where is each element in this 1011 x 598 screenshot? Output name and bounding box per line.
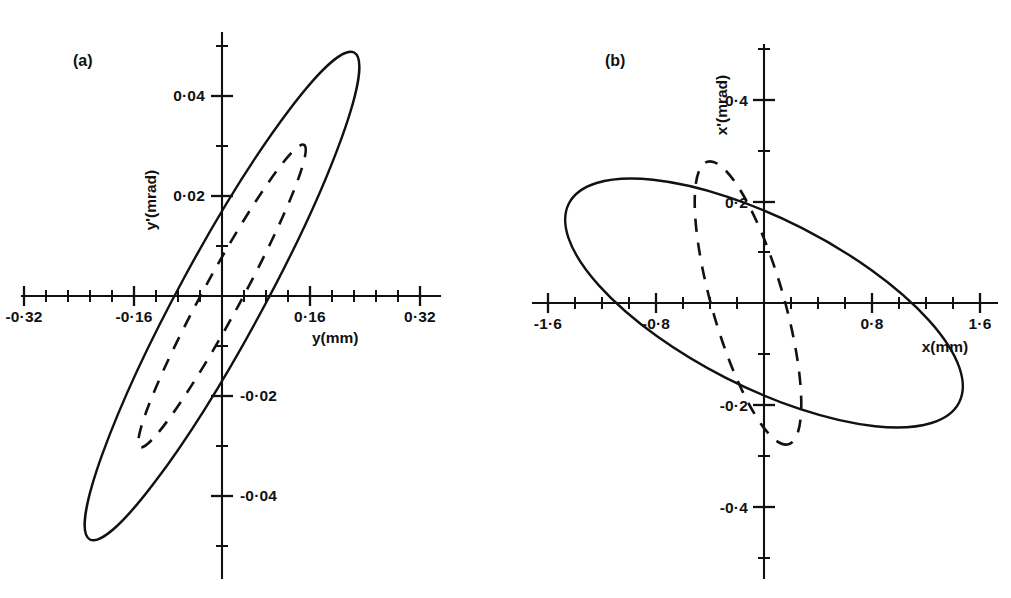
panel-b-xtick-label-4: 1·6 xyxy=(968,315,991,332)
panel-b-y-axis-title: x'(mrad) xyxy=(713,75,730,136)
panel-a-x-axis-title: y(mm) xyxy=(312,329,359,346)
panel-a-ytick-label-2: 0·02 xyxy=(173,187,205,204)
panel-a-xtick-label-4: 0·32 xyxy=(404,308,436,325)
panel-b-plot: (b) -1·6 -0·8 0·8 1·6 0·4 0·2 -0·2 -0·4 … xyxy=(505,0,1011,598)
panel-a-xtick-label-2: -0·16 xyxy=(115,308,152,325)
panel-b-ytick-label-3: -0·2 xyxy=(720,397,748,414)
panel-a-plot: (a) -0·32 -0·16 0·16 0·32 0·04 0·02 -0·0… xyxy=(0,0,505,598)
phase-space-figure: (a) -0·32 -0·16 0·16 0·32 0·04 0·02 -0·0… xyxy=(0,0,1011,598)
panel-b-xtick-label-2: -0·8 xyxy=(642,315,671,332)
panel-a-label: (a) xyxy=(73,52,93,69)
panel-a-xtick-label-1: -0·32 xyxy=(5,308,42,325)
panel-a-ytick-label-4: -0·04 xyxy=(240,487,277,504)
panel-b-x-axis-title: x(mm) xyxy=(922,338,969,355)
panel-b-xtick-label-3: 0·8 xyxy=(860,315,883,332)
panel-b: (b) -1·6 -0·8 0·8 1·6 0·4 0·2 -0·2 -0·4 … xyxy=(505,0,1011,598)
panel-b-label: (b) xyxy=(605,52,625,69)
panel-b-ytick-label-2: 0·2 xyxy=(725,194,748,211)
panel-a-ytick-label-3: -0·02 xyxy=(240,387,277,404)
panel-a-xtick-label-3: 0·16 xyxy=(294,308,326,325)
panel-b-xtick-label-1: -1·6 xyxy=(534,315,563,332)
panel-a: (a) -0·32 -0·16 0·16 0·32 0·04 0·02 -0·0… xyxy=(0,0,505,598)
panel-a-ytick-label-1: 0·04 xyxy=(173,87,205,104)
panel-b-ytick-label-4: -0·4 xyxy=(720,499,749,516)
panel-a-y-axis-title: y'(mrad) xyxy=(142,170,159,231)
